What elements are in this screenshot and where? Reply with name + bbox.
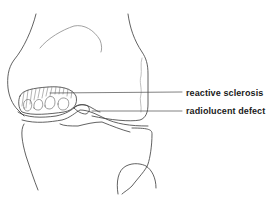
label-radiolucent-defect: radiolucent defect — [186, 106, 265, 116]
label-reactive-sclerosis: reactive sclerosis — [186, 88, 263, 98]
fibula-head-outline — [117, 164, 156, 194]
joint-line-lower — [22, 110, 148, 126]
knee-joint-drawing — [0, 0, 271, 197]
tibia-right-outline — [122, 128, 152, 194]
leader-line-reactive-sclerosis — [50, 92, 182, 93]
femur-left-outline — [8, 14, 36, 116]
femur-right-inner-cortex — [140, 58, 142, 112]
tibia-left-outline — [22, 124, 38, 190]
radiolucent-pocket — [34, 99, 43, 110]
radiolucent-pocket — [45, 96, 55, 109]
radiolucent-pocket — [58, 98, 69, 110]
femur-right-outline — [92, 14, 148, 121]
femur-intercondylar-arc — [40, 26, 102, 52]
